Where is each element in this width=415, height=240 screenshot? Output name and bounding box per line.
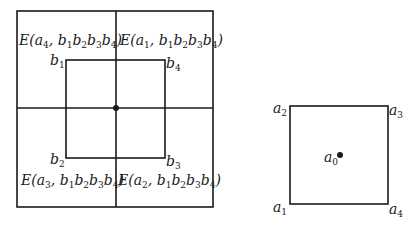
quadrant-label-bottom-left: E(a3, b1b2b3b4) [21, 173, 124, 187]
center-label-a0: a0 [324, 150, 338, 164]
corner-label-b4: b4 [166, 56, 181, 70]
corner-label-a4: a4 [389, 202, 403, 216]
corner-label-b3: b3 [166, 154, 181, 168]
quadrant-label-bottom-right: E(a2, b1b2b3b4) [118, 173, 221, 187]
corner-label-a1: a1 [273, 200, 287, 214]
corner-label-b2: b2 [50, 152, 65, 166]
corner-label-a2: a2 [273, 101, 287, 115]
quadrant-label-top-left: E(a4, b1b2b3b4) [19, 33, 122, 47]
corner-label-a3: a3 [389, 103, 403, 117]
corner-label-b1: b1 [50, 53, 65, 67]
quadrant-label-top-right: E(a1, b1b2b3b4) [120, 33, 223, 47]
center-point [113, 105, 119, 111]
